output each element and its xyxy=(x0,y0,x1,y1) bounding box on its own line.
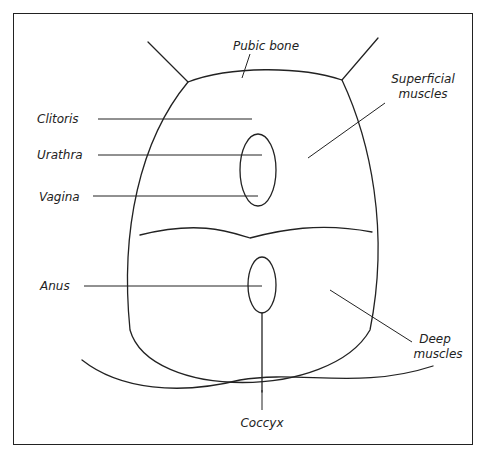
label-superficial-muscles-line1: Superficial xyxy=(378,72,468,86)
label-urethra: Urathra xyxy=(37,148,83,162)
buttocks-line xyxy=(82,360,433,388)
pubic-leader xyxy=(242,54,250,78)
label-vagina: Vagina xyxy=(39,190,80,204)
label-superficial-muscles-line2: muscles xyxy=(378,87,468,101)
vaginal-opening-outline xyxy=(240,134,276,206)
label-clitoris: Clitoris xyxy=(37,112,79,126)
superficial-leader xyxy=(308,103,385,158)
label-coccyx: Coccyx xyxy=(222,416,302,430)
label-anus: Anus xyxy=(40,279,70,293)
deep-leader xyxy=(330,290,412,342)
pelvic-floor-diagram xyxy=(0,0,482,454)
anal-opening-outline xyxy=(248,257,276,313)
transverse-muscle xyxy=(140,227,372,238)
label-pubic-bone: Pubic bone xyxy=(218,39,314,53)
pelvic-outline xyxy=(127,80,378,383)
label-deep-muscles-line2: muscles xyxy=(405,347,471,361)
label-deep-muscles-line1: Deep xyxy=(405,332,465,346)
